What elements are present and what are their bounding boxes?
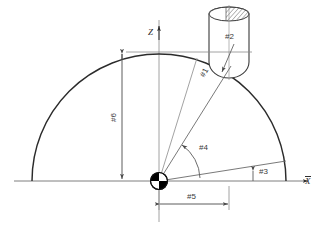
- diagram-vector-layer: [0, 0, 325, 226]
- label-param-5: #5: [187, 193, 196, 201]
- origin-marker: [151, 173, 168, 190]
- radius-line-1: [159, 66, 231, 181]
- angle-4-arc: [182, 145, 200, 178]
- label-param-2: #2: [225, 33, 234, 41]
- radius-apex-line: [159, 58, 197, 181]
- technical-diagram-canvas: #1 #2 #3 #4 #5 #6 Z X: [0, 0, 325, 226]
- label-param-6: #6: [110, 113, 118, 122]
- label-axis-x: X: [305, 176, 311, 186]
- label-param-3: #3: [259, 168, 268, 176]
- label-axis-z: Z: [148, 28, 153, 37]
- radius-1-line: [159, 66, 231, 181]
- label-param-4: #4: [199, 144, 208, 152]
- angle-arc-4: [182, 145, 200, 178]
- radius-line-apex: [159, 58, 197, 181]
